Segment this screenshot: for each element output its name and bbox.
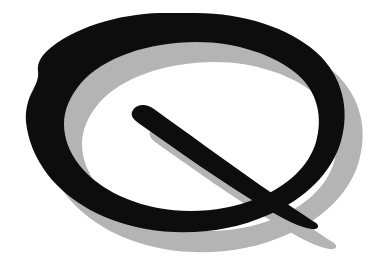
q-logo-artwork	[0, 0, 383, 275]
logo-canvas	[0, 0, 383, 275]
